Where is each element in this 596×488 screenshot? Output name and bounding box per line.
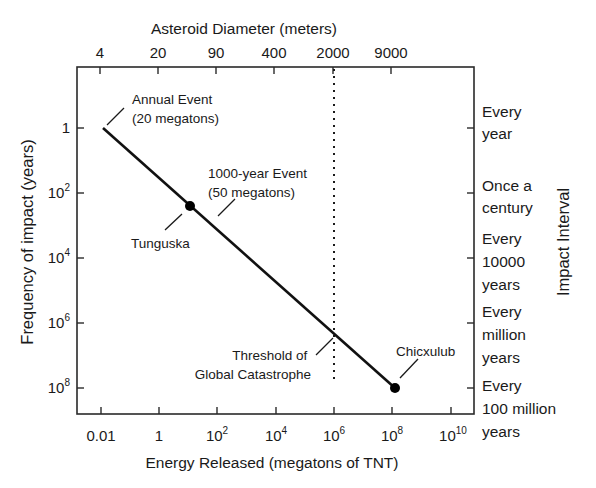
- annotation-1000-year-event: 1000-year Event (50 megatons): [208, 166, 311, 200]
- y-axis-title: Frequency of impact (years): [18, 139, 36, 344]
- right-tick-label: Every year: [482, 103, 526, 142]
- y-tick-label: 106: [48, 312, 71, 331]
- y-tick-label: 104: [48, 247, 71, 266]
- bottom-ticks: [101, 407, 451, 414]
- top-axis-title: Asteroid Diameter (meters): [151, 20, 337, 37]
- top-tick-label: 4: [96, 44, 104, 61]
- x-tick-labels: 0.01 1 102 104 106 108 1010: [86, 425, 467, 444]
- top-tick-label: 9000: [374, 44, 407, 61]
- chicxulub-point: [390, 383, 400, 393]
- x-tick-label: 104: [265, 425, 288, 444]
- impact-frequency-chart: Asteroid Diameter (meters) 4 20 90 400 2…: [0, 0, 596, 488]
- right-tick-labels: Every year Once a century Every 10000 ye…: [482, 103, 560, 440]
- left-ticks: [77, 128, 84, 388]
- right-tick-label: Once a century: [482, 177, 536, 216]
- annotation-annual-event: Annual Event (20 megatons): [132, 92, 219, 126]
- x-tick-label: 0.01: [86, 427, 115, 444]
- top-ticks: [100, 67, 391, 74]
- annotation-tunguska: Tunguska: [131, 236, 190, 251]
- top-tick-label: 90: [208, 44, 225, 61]
- x-tick-label: 108: [381, 425, 404, 444]
- right-axis-title: Impact Interval: [554, 188, 572, 296]
- x-axis-title: Energy Released (megatons of TNT): [146, 454, 399, 471]
- x-tick-label: 106: [323, 425, 346, 444]
- top-tick-label: 400: [261, 44, 286, 61]
- annotations: Annual Event (20 megatons) 1000-year Eve…: [131, 92, 455, 382]
- top-tick-label: 20: [150, 44, 167, 61]
- top-tick-labels: 4 20 90 400 2000 9000: [96, 44, 408, 61]
- y-tick-label: 1: [62, 119, 70, 136]
- y-tick-label: 102: [48, 182, 71, 201]
- x-tick-label: 1: [155, 427, 163, 444]
- right-tick-label: Every 10000 years: [482, 230, 529, 293]
- right-tick-label: Every 100 million years: [482, 377, 560, 440]
- annotation-chicxulub: Chicxulub: [396, 344, 455, 359]
- top-tick-label: 2000: [316, 44, 349, 61]
- tunguska-point: [185, 201, 195, 211]
- x-tick-label: 102: [206, 425, 229, 444]
- right-tick-label: Every million years: [482, 303, 530, 366]
- y-tick-labels: 1 102 104 106 108: [48, 119, 71, 396]
- annotation-threshold: Threshold of Global Catastrophe: [195, 348, 311, 382]
- x-tick-label: 1010: [439, 425, 467, 444]
- y-tick-label: 108: [48, 377, 71, 396]
- right-ticks: [467, 128, 474, 388]
